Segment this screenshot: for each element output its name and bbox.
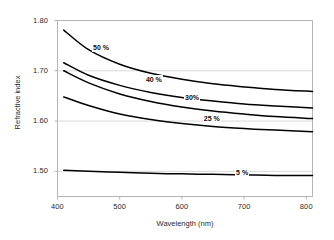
y-tick-label-1-80: 1.80	[14, 16, 48, 25]
chart-figure: 1.50 1.60 1.70 1.80 400 500 600 700 800 …	[0, 0, 334, 240]
series-label-40-percent: 40 %	[145, 75, 163, 84]
y-axis-title: Refractive index	[13, 48, 22, 158]
x-tick-label-400: 400	[38, 202, 78, 211]
series-label-50-percent: 50 %	[92, 43, 110, 52]
series-label-5-percent: 5 %	[235, 168, 249, 177]
series-label-25-percent: 25 %	[203, 114, 221, 123]
x-axis-title: Wavelength (nm)	[57, 219, 313, 228]
y-tick-label-1-50: 1.50	[14, 166, 48, 175]
x-tick-label-600: 600	[162, 202, 202, 211]
series-label-30-percent: 30%	[184, 93, 200, 102]
x-tick-label-700: 700	[224, 202, 264, 211]
x-tick-label-800: 800	[286, 202, 326, 211]
x-tick-label-500: 500	[100, 202, 140, 211]
curve-50-percent	[64, 30, 313, 91]
